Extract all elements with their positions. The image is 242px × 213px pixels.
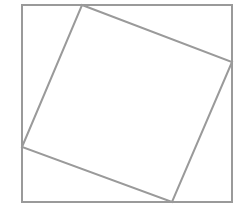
inner-tilted-square	[22, 5, 232, 202]
diagram-canvas	[0, 0, 242, 213]
diagram-svg	[0, 0, 242, 213]
outer-square	[22, 5, 232, 202]
